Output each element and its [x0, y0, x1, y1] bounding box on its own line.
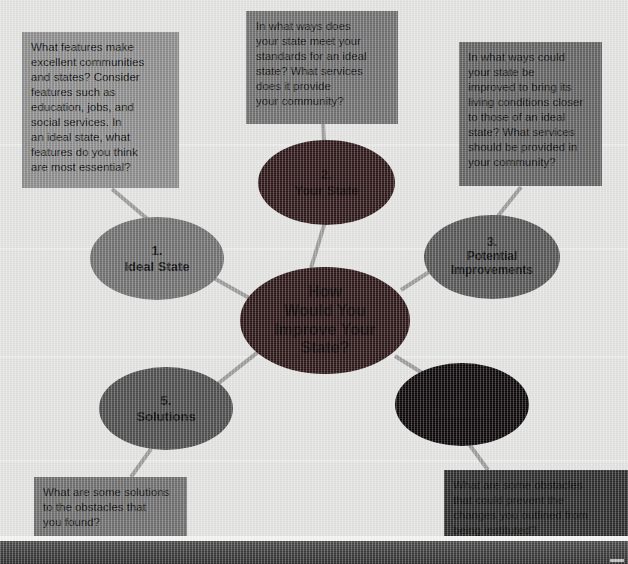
- callout-1[interactable]: What features make excellent communities…: [22, 32, 179, 188]
- center-node[interactable]: How Would You Improve Your State?: [240, 267, 410, 374]
- connector-line: [131, 449, 151, 477]
- callout-2[interactable]: In what ways does your state meet your s…: [246, 11, 398, 124]
- node-3[interactable]: 3. Potential Improvements: [424, 215, 560, 299]
- node-label: 1. Ideal State: [118, 243, 195, 273]
- node-5[interactable]: 5. Solutions: [99, 367, 233, 450]
- connector-line: [311, 222, 325, 268]
- diagram-canvas: How Would You Improve Your State?1. Idea…: [0, 0, 628, 541]
- connector-line: [469, 444, 488, 470]
- callout-4[interactable]: What are some obstacles that could preve…: [444, 470, 628, 544]
- connector-line: [323, 124, 324, 141]
- callout-5[interactable]: What are some solutions to the obstacles…: [34, 477, 187, 536]
- node-label: How Would You Improve Your State?: [268, 283, 382, 357]
- footer-tick-mark: [610, 559, 624, 562]
- diagram-page: How Would You Improve Your State?1. Idea…: [0, 0, 628, 564]
- node-label: 2. Your State: [288, 167, 364, 197]
- connector-line: [215, 352, 258, 386]
- node-label: 4. Obstacles: [425, 389, 499, 419]
- node-1[interactable]: 1. Ideal State: [90, 217, 224, 300]
- footer-bar: [0, 541, 628, 564]
- connector-line: [498, 187, 521, 216]
- node-label: 3. Potential Improvements: [445, 236, 539, 278]
- callout-3[interactable]: In what ways could your state be improve…: [459, 42, 602, 186]
- node-label: 5. Solutions: [130, 393, 201, 423]
- node-2[interactable]: 2. Your State: [258, 140, 395, 225]
- node-4[interactable]: 4. Obstacles: [395, 363, 529, 446]
